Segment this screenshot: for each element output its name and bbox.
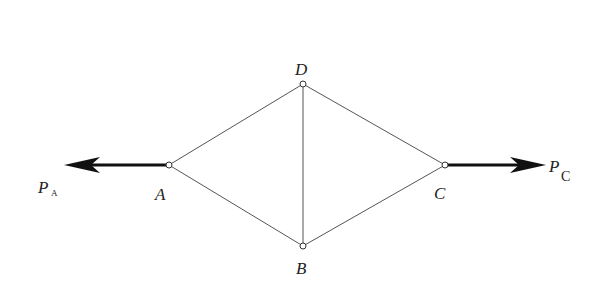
force-label-PC-subscript: C xyxy=(561,169,570,184)
node-D xyxy=(300,81,306,87)
node-label-D: D xyxy=(294,60,308,79)
force-arrow-PA xyxy=(64,157,166,173)
node-label-A: A xyxy=(154,185,166,204)
truss-nodes xyxy=(166,81,448,249)
force-arrow-PC xyxy=(448,157,546,173)
member-DC xyxy=(303,84,445,165)
force-label-PC: P xyxy=(548,157,559,176)
node-B xyxy=(300,243,306,249)
truss-members xyxy=(169,84,445,246)
node-C xyxy=(442,162,448,168)
member-AB xyxy=(169,165,303,246)
node-label-C: C xyxy=(434,184,446,203)
node-A xyxy=(166,162,172,168)
force-label-PA: P xyxy=(37,178,48,197)
member-BC xyxy=(303,165,445,246)
node-label-B: B xyxy=(296,259,307,278)
force-label-PA-subscript: A xyxy=(51,188,58,198)
member-AD xyxy=(169,84,303,165)
truss-diagram: A B C D P A P C xyxy=(0,0,607,305)
